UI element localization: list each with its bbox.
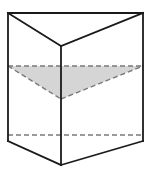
figure-canvas — [0, 0, 153, 174]
triangular-prism-diagram — [0, 0, 153, 174]
